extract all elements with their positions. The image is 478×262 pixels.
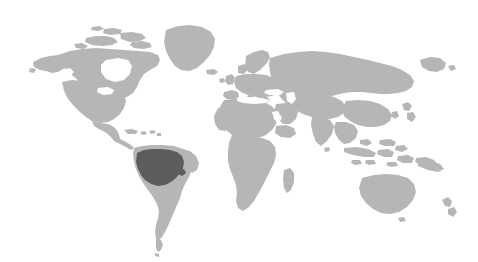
world-map-figure	[0, 0, 478, 262]
world-map-svg	[0, 0, 478, 262]
